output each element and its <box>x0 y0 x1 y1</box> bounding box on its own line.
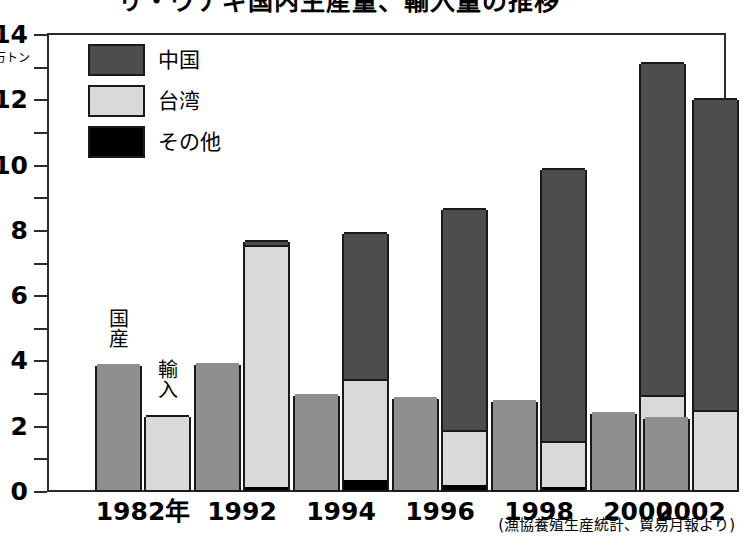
bar-series-layer: 国産輸入 <box>0 0 743 540</box>
bar-domestic-1994 <box>293 396 340 492</box>
bar-import-1982年 <box>144 417 191 492</box>
source-note: (漁協養殖生産統計、貿易月報より) <box>498 518 735 533</box>
bar-domestic-1982年 <box>95 366 142 492</box>
annotation-import: 輸入 <box>156 359 176 399</box>
bar-segment-taiwan <box>245 245 288 487</box>
bar-segment-taiwan <box>694 410 737 490</box>
chart-root: リ・ウナギ国内生産量、輸入量の推移 14121086420万トン 中国 台湾 そ… <box>0 0 743 540</box>
bar-segment-domestic <box>493 400 536 490</box>
bar-segment-other <box>443 485 486 490</box>
bar-segment-china <box>443 208 486 430</box>
bar-segment-domestic <box>295 394 338 490</box>
bar-segment-taiwan <box>146 415 189 490</box>
bar-segment-taiwan <box>443 430 486 485</box>
bar-segment-domestic <box>645 417 688 490</box>
bar-import-1992 <box>243 242 290 492</box>
x-axis-label-1982年: 1982年 <box>96 499 191 524</box>
bar-segment-domestic <box>592 412 635 490</box>
bar-import-1994 <box>342 234 389 492</box>
bar-segment-other <box>344 480 387 490</box>
bar-domestic-1992 <box>194 365 241 492</box>
bar-segment-other <box>542 487 585 490</box>
bar-domestic-1996 <box>392 399 439 492</box>
bar-segment-taiwan <box>542 441 585 487</box>
bar-segment-domestic <box>196 363 239 490</box>
bar-domestic-2000 <box>590 414 637 492</box>
bar-import-2002 <box>692 100 739 492</box>
bar-segment-china <box>694 98 737 410</box>
x-axis-label-1996: 1996 <box>405 499 475 524</box>
bar-segment-china <box>641 62 684 395</box>
x-axis-label-1992: 1992 <box>207 499 277 524</box>
bar-domestic-1998 <box>491 402 538 492</box>
bar-import-1996 <box>441 210 488 492</box>
bar-segment-domestic <box>394 397 437 490</box>
bar-segment-domestic <box>97 364 140 490</box>
annotation-domestic: 国産 <box>107 308 127 348</box>
bar-segment-taiwan <box>344 379 387 480</box>
bar-domestic-2002 <box>643 419 690 492</box>
bar-segment-china <box>245 240 288 245</box>
bar-segment-other <box>245 487 288 490</box>
bar-segment-china <box>344 232 387 379</box>
bar-segment-china <box>542 168 585 441</box>
x-axis-label-1994: 1994 <box>306 499 376 524</box>
bar-import-1998 <box>540 170 587 492</box>
